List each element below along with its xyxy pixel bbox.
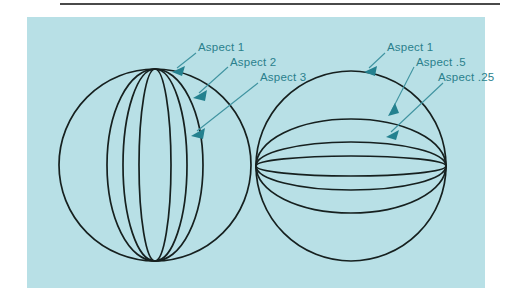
callout-left-aspect-1-line — [177, 53, 196, 68]
label-left-aspect-3: Aspect 3 — [260, 71, 306, 83]
callout-right-aspect-1-arrowhead — [364, 66, 377, 76]
label-left-aspect-2: Aspect 2 — [230, 56, 276, 68]
callout-right-aspect-05-line — [392, 67, 414, 110]
callout-right-aspect-025-arrowhead — [386, 130, 399, 140]
callout-right-aspect-05-arrowhead — [388, 103, 399, 116]
left-sphere-meridian-aspect-3 — [123, 69, 187, 261]
right-sphere-latitude-aspect-05 — [256, 119, 446, 213]
left-sphere-group — [59, 69, 251, 261]
callout-right-aspect-025-line — [391, 83, 443, 132]
figure-page: Aspect 1 Aspect 2 Aspect 3 Aspect 1 Aspe… — [0, 0, 511, 305]
label-right-aspect-05: Aspect .5 — [416, 56, 466, 68]
callout-right-aspect-1-line — [369, 53, 385, 68]
label-left-aspect-1: Aspect 1 — [198, 41, 244, 53]
right-sphere-latitude-inner — [256, 156, 446, 176]
callout-left-aspect-3-line — [197, 83, 258, 131]
label-right-aspect-1: Aspect 1 — [387, 41, 433, 53]
left-sphere-outline — [59, 69, 251, 261]
right-sphere-latitude-aspect-025 — [256, 142, 446, 190]
sphere-aspect-figure: Aspect 1 Aspect 2 Aspect 3 Aspect 1 Aspe… — [0, 0, 511, 305]
label-right-aspect-025: Aspect .25 — [438, 71, 494, 83]
left-sphere-meridian-inner — [139, 69, 171, 261]
right-sphere-group — [256, 71, 446, 261]
left-sphere-meridian-aspect-2 — [107, 69, 203, 261]
right-sphere-outline — [256, 71, 446, 261]
